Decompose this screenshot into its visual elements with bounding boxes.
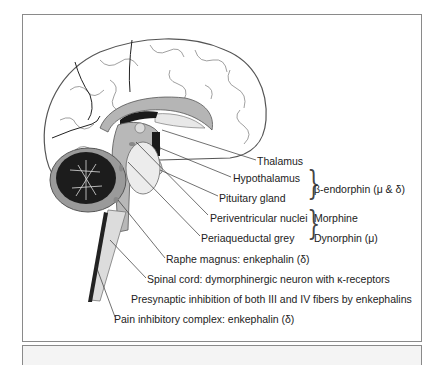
label-periventricular-nuclei: Periventricular nuclei bbox=[210, 212, 307, 224]
label-beta-endorphin: β-endorphin (μ & δ) bbox=[314, 183, 405, 195]
label-morphine: Morphine bbox=[314, 212, 358, 224]
label-spinal-cord: Spinal cord: dymorphinergic neuron with … bbox=[147, 273, 390, 285]
label-presynaptic-inhibition: Presynaptic inhibition of both III and I… bbox=[131, 293, 412, 305]
label-pain-inhibitory-complex: Pain inhibitory complex: enkephalin (δ) bbox=[114, 313, 294, 325]
label-thalamus: Thalamus bbox=[257, 155, 303, 167]
label-periaqueductal-grey: Periaqueductal grey bbox=[201, 232, 294, 244]
label-hypothalamus: Hypothalamus bbox=[233, 172, 300, 184]
label-dynorphin: Dynorphin (μ) bbox=[314, 232, 378, 244]
label-pituitary-gland: Pituitary gland bbox=[219, 192, 286, 204]
label-raphe-magnus: Raphe magnus: enkephalin (δ) bbox=[166, 253, 310, 265]
